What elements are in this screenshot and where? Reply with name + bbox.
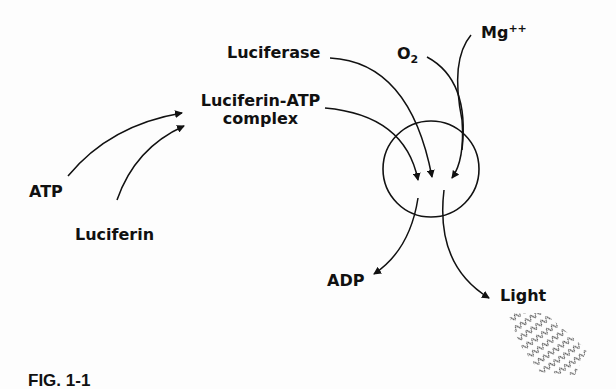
arrow-circle-to-light xyxy=(443,190,489,298)
label-atp: ATP xyxy=(29,183,63,201)
arrow-luciferase-to-circle xyxy=(330,58,432,177)
label-luciferase: Luciferase xyxy=(227,44,320,62)
label-o2: O2 xyxy=(397,45,418,69)
label-adp: ADP xyxy=(327,272,364,290)
label-luciferin-atp-complex: Luciferin-ATP complex xyxy=(193,92,328,128)
label-light: Light xyxy=(500,287,546,305)
arrow-atp-to-complex xyxy=(68,113,182,176)
arrow-circle-to-adp xyxy=(374,198,418,274)
light-waves-icon xyxy=(508,313,587,375)
label-mg: Mg++ xyxy=(481,20,527,42)
label-luciferin: Luciferin xyxy=(75,226,154,244)
figure-caption: FIG. 1-1 xyxy=(28,372,90,389)
arrow-complex-to-circle xyxy=(325,108,418,180)
luciferase-reaction-diagram: Luciferase Luciferin-ATP complex O2 Mg++… xyxy=(0,0,616,389)
arrow-luciferin-to-complex xyxy=(117,126,184,200)
